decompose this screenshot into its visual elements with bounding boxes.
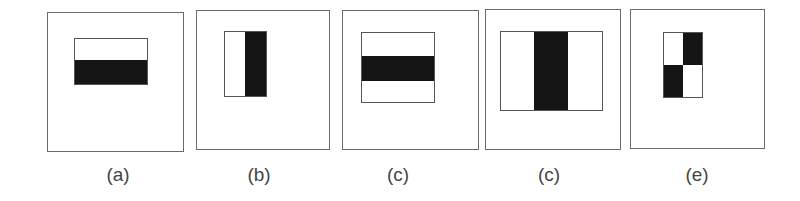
panel-b-dark-region: [245, 32, 266, 96]
panel-e-label: (e): [667, 164, 727, 186]
panel-a-label: (a): [88, 164, 148, 186]
panel-e-dark-top-right: [683, 33, 702, 65]
panel-b-label: (b): [229, 164, 289, 186]
panel-c-label: (c): [368, 164, 428, 186]
panel-b-feature: [224, 31, 267, 97]
panel-c2-dark-band: [534, 32, 568, 110]
panel-e-dark-bottom-left: [664, 65, 683, 97]
panel-c-feature: [361, 32, 435, 103]
panel-c-dark-band: [362, 56, 434, 81]
panel-a-feature: [74, 38, 148, 85]
panel-e-feature: [663, 32, 703, 98]
panel-c2-feature: [500, 31, 603, 111]
panel-a-dark-region: [75, 60, 147, 84]
panel-c2-label: (c): [519, 164, 579, 186]
